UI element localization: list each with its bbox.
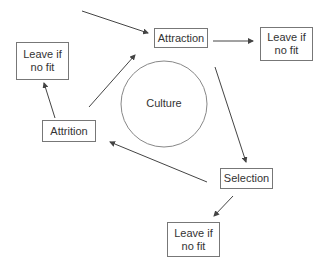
leave-left-box: Leave if no fit <box>16 42 69 80</box>
attraction-box: Attraction <box>154 28 208 48</box>
arrow-selection-to-leave <box>214 196 233 216</box>
arrow-attraction-to-selection <box>215 67 246 162</box>
leave-bottom-box: Leave if no fit <box>167 222 220 257</box>
attrition-box: Attrition <box>42 120 96 142</box>
arrow-into-attraction <box>82 11 148 33</box>
selection-box: Selection <box>220 168 273 189</box>
arrow-selection-to-attrition <box>110 142 207 182</box>
leave-right-box: Leave if no fit <box>260 27 313 61</box>
arrow-attrition-to-leave <box>44 83 55 118</box>
culture-label: Culture <box>134 97 194 109</box>
